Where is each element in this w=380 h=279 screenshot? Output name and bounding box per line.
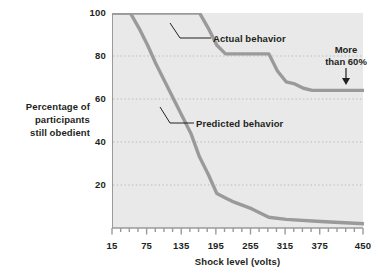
- annotation-more-than-60-percent: More than 60%: [316, 44, 376, 68]
- x-tick-label-450: 450: [348, 240, 378, 251]
- x-tick-label-375: 375: [305, 240, 335, 251]
- annotation-actual-behavior: Actual behavior: [213, 33, 286, 44]
- x-tick-label-315: 315: [270, 240, 300, 251]
- annotation-predicted-behavior: Predicted behavior: [196, 118, 283, 129]
- y-tick-label-60: 60: [80, 93, 106, 104]
- y-axis-title: Percentage of participants still obedien…: [4, 100, 90, 139]
- x-tick-label-195: 195: [201, 240, 231, 251]
- y-tick-label-100: 100: [80, 7, 106, 18]
- y-tick-label-40: 40: [80, 136, 106, 147]
- y-axis-title-line-1: Percentage of: [4, 100, 90, 113]
- callout-line-2: than 60%: [316, 56, 376, 68]
- x-axis-title: Shock level (volts): [112, 256, 363, 267]
- x-tick-label-75: 75: [132, 240, 162, 251]
- y-tick-label-20: 20: [80, 179, 106, 190]
- y-axis-title-line-2: participants: [4, 113, 90, 126]
- x-tick-label-135: 135: [166, 240, 196, 251]
- x-tick-label-255: 255: [235, 240, 265, 251]
- x-axis-ticks: [112, 228, 363, 235]
- y-tick-label-80: 80: [80, 50, 106, 61]
- y-axis-title-line-3: still obedient: [4, 126, 90, 139]
- x-tick-label-15: 15: [97, 240, 127, 251]
- callout-line-1: More: [316, 44, 376, 56]
- chart-figure: Percentage of participants still obedien…: [0, 0, 380, 279]
